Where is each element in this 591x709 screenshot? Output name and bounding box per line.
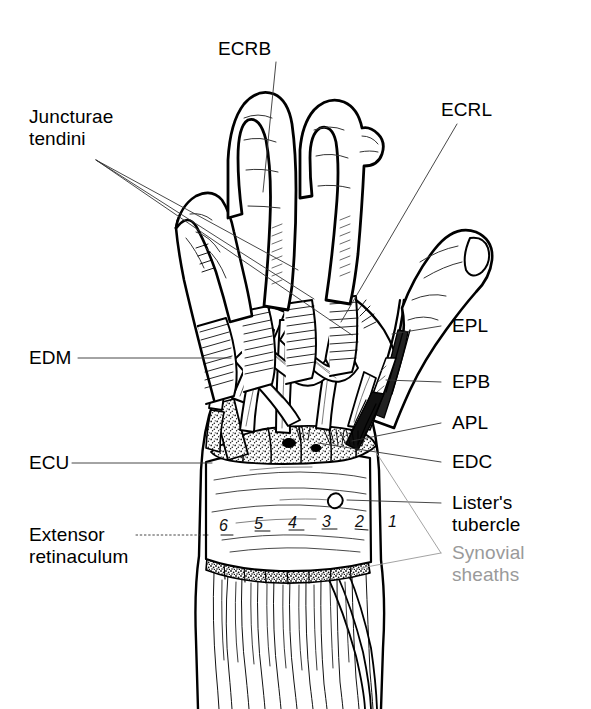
extensor-retinaculum	[206, 451, 371, 571]
compartment-number-4: 4	[288, 514, 297, 532]
compartment-number-5: 5	[254, 515, 263, 533]
label-epb: EPB	[452, 371, 490, 393]
label-ecrb: ECRB	[218, 38, 271, 60]
label-epl: EPL	[452, 315, 488, 337]
label-synovial-sheaths-line1: Synovial	[452, 542, 525, 564]
label-ecu: ECU	[29, 452, 69, 474]
ecu-forearm-band	[326, 572, 377, 709]
label-apl: APL	[452, 412, 488, 434]
finger-index	[300, 100, 383, 304]
forearm-fine-lines	[222, 580, 349, 670]
anatomical-figure: ECRB ECRL Juncturae tendini EDM ECU Exte…	[0, 0, 591, 709]
label-extensor-retinaculum-line1: Extensor	[29, 524, 105, 546]
label-extensor-retinaculum-line2: retinaculum	[29, 546, 128, 568]
compartment-number-6: 6	[219, 517, 228, 535]
label-listers-tubercle-line1: Lister's	[452, 492, 512, 514]
compartment-number-1: 1	[388, 513, 397, 531]
listers-tubercle-marker	[328, 493, 343, 508]
label-edm: EDM	[29, 347, 72, 369]
label-ecrl: ECRL	[441, 99, 492, 121]
label-juncturae-tendini-line2: tendini	[29, 128, 86, 150]
label-juncturae-tendini-line1: Juncturae	[29, 106, 113, 128]
label-edc: EDC	[452, 451, 492, 473]
compartment-number-2: 2	[355, 513, 364, 531]
forearm-tendon-striations	[213, 573, 373, 709]
label-synovial-sheaths-line2: sheaths	[452, 564, 519, 586]
label-listers-tubercle-line2: tubercle	[452, 514, 520, 536]
compartment-number-3: 3	[322, 513, 331, 531]
